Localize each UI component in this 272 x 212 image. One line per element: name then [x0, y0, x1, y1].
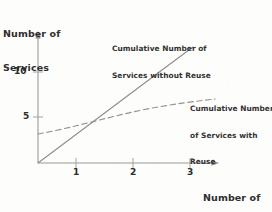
- y-axis-title: Number of Services: [3, 6, 60, 96]
- y-axis-title-line-2: Services: [3, 62, 60, 73]
- annotation-without-reuse-line-1: Cumulative Number of: [112, 45, 211, 54]
- annotation-with-reuse-line-1: Cumulative Number: [190, 105, 272, 114]
- y-tick-label-10: 10: [14, 66, 27, 77]
- annotation-with-reuse: Cumulative Number of Services with Reuse: [190, 88, 272, 184]
- annotation-with-reuse-line-3: Reuse: [190, 158, 272, 167]
- x-tick-label-3: 3: [187, 167, 193, 178]
- chart-figure: Number of Services Number of Application…: [0, 0, 272, 212]
- series-line-with-reuse: [38, 99, 215, 134]
- x-axis-title-line-1: Number of: [203, 192, 270, 203]
- x-tick-label-2: 2: [130, 167, 136, 178]
- annotation-with-reuse-line-2: of Services with: [190, 132, 272, 141]
- y-axis-title-line-1: Number of: [3, 28, 60, 39]
- y-tick-label-5: 5: [23, 111, 29, 122]
- annotation-without-reuse-line-2: Services without Reuse: [112, 72, 211, 81]
- x-tick-label-1: 1: [73, 167, 79, 178]
